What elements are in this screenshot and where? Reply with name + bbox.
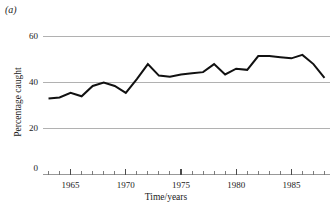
x-tick-label-1980: 1980: [216, 181, 256, 190]
x-tick-label-1985: 1985: [271, 181, 311, 190]
x-tick-label-1970: 1970: [106, 181, 146, 190]
data-series-line: [49, 55, 325, 99]
y-axis-title: Percentage caught: [13, 37, 23, 167]
x-axis-ticks: [49, 169, 325, 175]
x-tick-label-1975: 1975: [161, 181, 201, 190]
gridlines: [43, 37, 330, 129]
x-tick-label-1965: 1965: [51, 181, 91, 190]
x-axis-title: Time/years: [0, 192, 332, 202]
figure-panel-a: (a) 60 40 20 0 1965 1970 1975 1980 1985 …: [0, 0, 332, 211]
